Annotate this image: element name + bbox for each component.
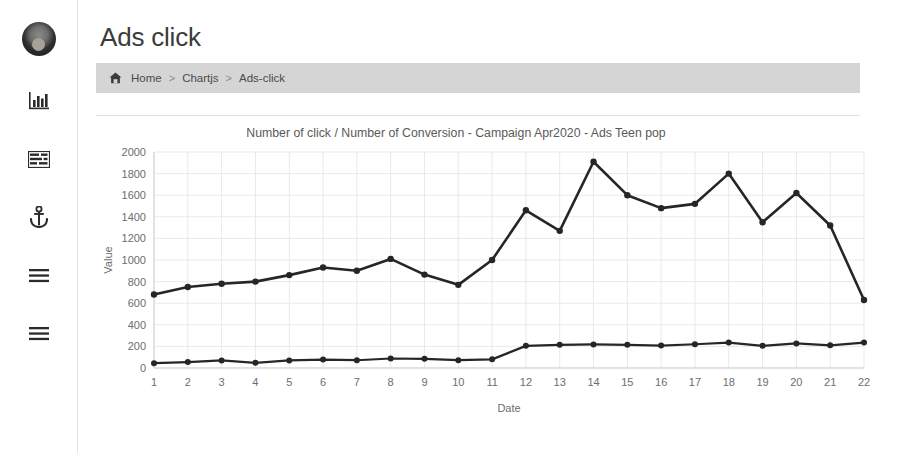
breadcrumb-item-ads-click: Ads-click [239,72,285,84]
avatar[interactable] [22,22,56,56]
data-point[interactable] [185,359,191,365]
data-point[interactable] [557,228,563,234]
main-content: Ads click Home > Chartjs > Ads-click Num… [78,0,911,453]
data-point[interactable] [523,207,529,213]
data-point[interactable] [218,281,224,287]
data-point[interactable] [388,355,394,361]
x-tick-label: 22 [858,376,870,388]
data-point[interactable] [692,341,698,347]
data-point[interactable] [354,268,360,274]
data-point[interactable] [320,264,326,270]
data-point[interactable] [793,340,799,346]
x-tick-label: 9 [421,376,427,388]
x-tick-label: 15 [621,376,633,388]
y-tick-label: 1600 [122,189,146,201]
data-point[interactable] [185,284,191,290]
y-tick-label: 1200 [122,232,146,244]
x-tick-label: 20 [790,376,802,388]
data-point[interactable] [861,340,867,346]
y-tick-label: 0 [140,362,146,374]
data-point[interactable] [151,360,157,366]
data-point[interactable] [624,342,630,348]
data-point[interactable] [793,190,799,196]
x-tick-label: 8 [388,376,394,388]
data-point[interactable] [827,222,833,228]
breadcrumb-separator: > [169,72,175,84]
home-icon [109,72,122,84]
data-point[interactable] [455,282,461,288]
data-point[interactable] [252,360,258,366]
data-point[interactable] [523,343,529,349]
data-point[interactable] [591,341,597,347]
list-icon [28,326,50,341]
data-point[interactable] [252,278,258,284]
menu-icon [28,268,50,283]
y-tick-label: 600 [128,297,146,309]
data-point[interactable] [557,342,563,348]
data-point[interactable] [320,357,326,363]
x-tick-label: 7 [354,376,360,388]
data-point[interactable] [760,343,766,349]
divider [96,115,860,116]
x-tick-label: 17 [689,376,701,388]
data-point[interactable] [624,192,630,198]
data-point[interactable] [726,170,732,176]
data-point[interactable] [286,272,292,278]
sidebar-item-menu[interactable] [24,260,54,290]
sidebar-item-list[interactable] [24,318,54,348]
data-point[interactable] [455,357,461,363]
data-point[interactable] [387,256,393,262]
x-tick-label: 10 [452,376,464,388]
data-point[interactable] [489,356,495,362]
line-chart[interactable]: 0200400600800100012001400160018002000123… [96,120,886,420]
x-tick-label: 5 [286,376,292,388]
x-tick-label: 2 [185,376,191,388]
y-tick-label: 200 [128,340,146,352]
x-tick-label: 19 [756,376,768,388]
data-point[interactable] [219,357,225,363]
sidebar-item-charts[interactable] [24,86,54,116]
data-point[interactable] [827,342,833,348]
data-point[interactable] [658,205,664,211]
x-tick-label: 3 [219,376,225,388]
data-point[interactable] [726,340,732,346]
x-tick-label: 13 [554,376,566,388]
series-line-0 [154,162,864,300]
y-tick-label: 1400 [122,211,146,223]
data-point[interactable] [658,343,664,349]
y-axis-label: Value [102,246,114,273]
x-tick-label: 11 [486,376,497,388]
x-tick-label: 6 [320,376,326,388]
data-point[interactable] [759,219,765,225]
y-tick-label: 1800 [122,168,146,180]
data-point[interactable] [151,291,157,297]
x-tick-label: 14 [587,376,599,388]
breadcrumb-item-chartjs[interactable]: Chartjs [182,72,218,84]
data-point[interactable] [590,159,596,165]
data-point[interactable] [354,357,360,363]
data-point[interactable] [421,271,427,277]
page-title: Ads click [96,0,889,63]
y-tick-label: 1000 [122,254,146,266]
x-axis-label: Date [497,402,520,414]
app-root: Ads click Home > Chartjs > Ads-click Num… [0,0,911,453]
sidebar-item-anchor[interactable] [24,202,54,232]
sidebar [0,0,78,453]
data-point[interactable] [421,356,427,362]
breadcrumb: Home > Chartjs > Ads-click [96,63,860,93]
data-point[interactable] [489,257,495,263]
series-line-1 [154,343,864,364]
breadcrumb-separator: > [226,72,232,84]
y-tick-label: 2000 [122,146,146,158]
data-point[interactable] [692,201,698,207]
data-point[interactable] [861,297,867,303]
x-tick-label: 12 [520,376,532,388]
chart-container: Number of click / Number of Conversion -… [96,120,886,420]
data-point[interactable] [286,357,292,363]
table-icon [28,151,50,168]
sidebar-item-tables[interactable] [24,144,54,174]
x-tick-label: 16 [655,376,667,388]
anchor-icon [29,206,49,228]
x-tick-label: 1 [151,376,157,388]
breadcrumb-item-home[interactable]: Home [131,72,162,84]
